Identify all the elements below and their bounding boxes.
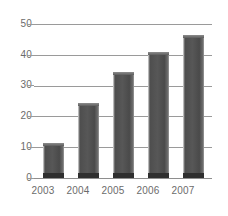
plot-area	[34, 24, 212, 178]
bar-2005	[113, 72, 134, 178]
y-axis-tick-10	[27, 147, 34, 148]
y-axis-tick-40	[27, 55, 34, 56]
y-axis-tick-20	[27, 116, 34, 117]
bar-2006	[148, 52, 169, 178]
gridline-50	[34, 24, 212, 25]
y-axis-tick-0	[27, 178, 34, 179]
bar-2007	[183, 35, 204, 178]
bar-2003	[43, 143, 64, 178]
x-axis-label-2007: 2007	[161, 186, 205, 196]
y-axis-tick-50	[27, 24, 34, 25]
bar-2004	[78, 103, 99, 178]
y-axis-tick-30	[27, 85, 34, 86]
axis-baseline	[34, 178, 212, 179]
bar-chart: 50 40 30 20 10 0 2003 2004 2005 2006 200…	[0, 0, 228, 216]
